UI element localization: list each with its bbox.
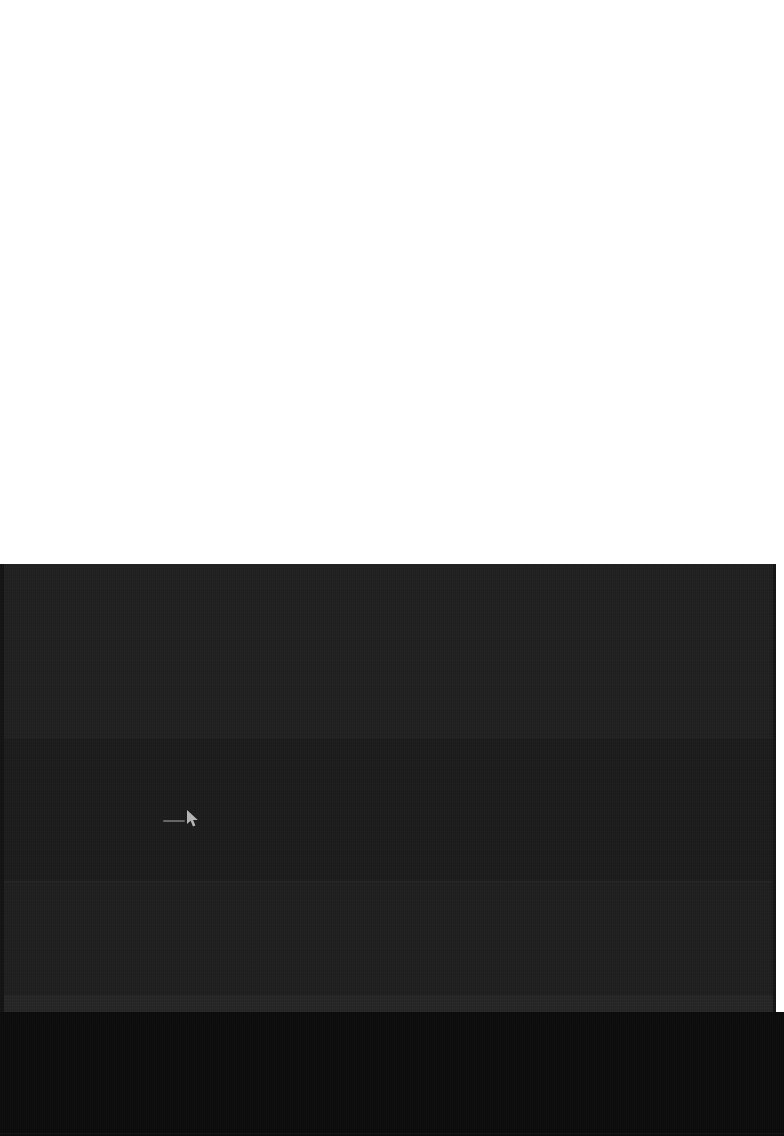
bottom-band-texture <box>0 1012 784 1136</box>
panel-band-middle-lower <box>0 881 776 995</box>
screenshot-root <box>0 0 784 1136</box>
panel-right-edge <box>773 564 776 1012</box>
panel-band-lower <box>0 995 776 1012</box>
panel-left-gutter <box>0 564 4 1012</box>
dark-content-panel[interactable] <box>0 564 776 1012</box>
bottom-band-hairline <box>0 1133 784 1134</box>
panel-divider-lower <box>0 881 776 882</box>
panel-divider-upper <box>0 737 776 738</box>
bottom-dark-band <box>0 1012 784 1136</box>
panel-band-upper <box>0 564 776 737</box>
blank-page-area <box>0 0 784 564</box>
panel-band-middle-upper <box>0 737 776 881</box>
